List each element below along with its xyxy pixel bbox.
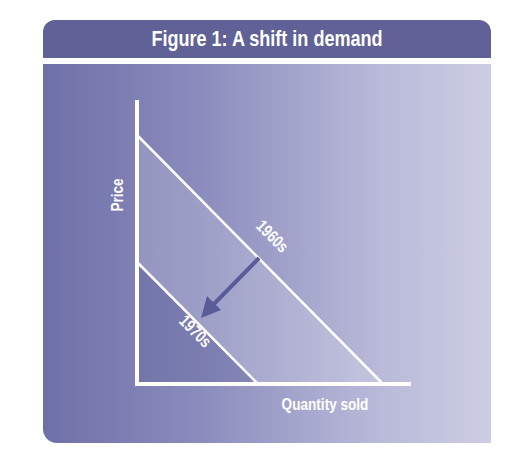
x-axis-label: Quantity sold: [282, 395, 369, 414]
figure-title: Figure 1: A shift in demand: [151, 26, 382, 52]
demand-chart: 1960s 1970s Price Quantity sold: [43, 64, 491, 443]
y-axis-label: Price: [108, 178, 127, 212]
figure-panel: Figure 1: A shift in demand 1960s 1970s …: [43, 20, 491, 443]
chart-area: 1960s 1970s Price Quantity sold: [43, 64, 491, 443]
figure-header: Figure 1: A shift in demand: [43, 20, 491, 58]
label-1960s: 1960s: [253, 216, 293, 256]
